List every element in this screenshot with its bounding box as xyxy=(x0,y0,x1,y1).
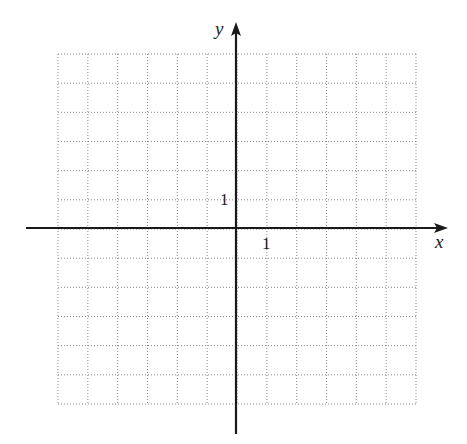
x-axis-label: x xyxy=(434,231,444,252)
coordinate-plane: x y 1 1 xyxy=(0,0,467,444)
y-axis-label: y xyxy=(213,18,224,39)
x-tick-label-1: 1 xyxy=(262,234,271,253)
y-tick-label-1: 1 xyxy=(220,190,229,209)
